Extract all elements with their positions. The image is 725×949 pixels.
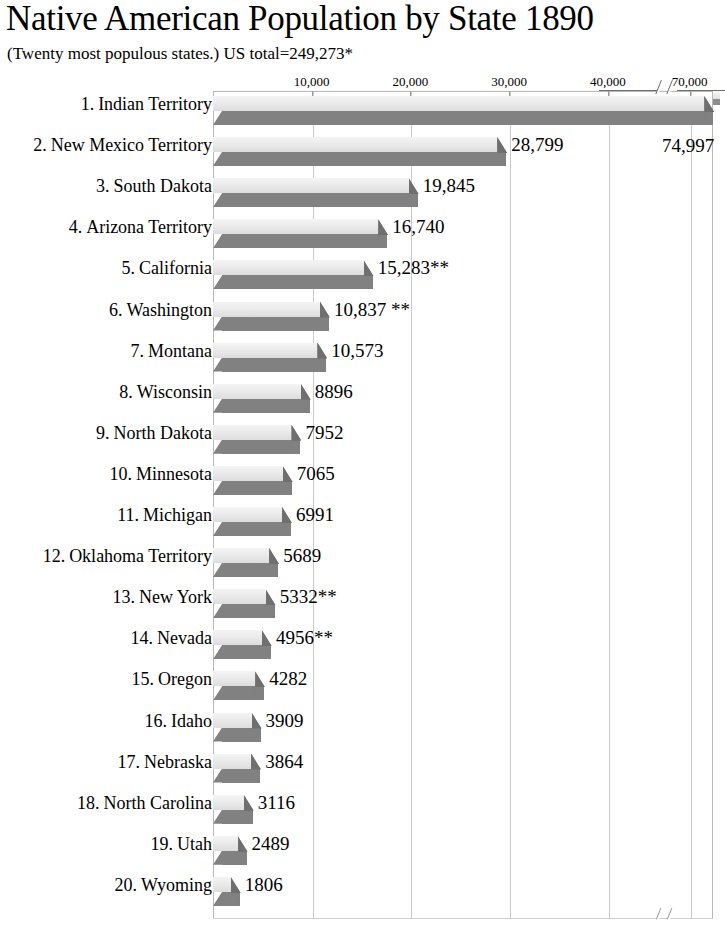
bar-foot [213,522,222,536]
row-state-name: Oregon [158,669,212,689]
bar-north-carolina [213,795,253,824]
row-rank: 11. [117,505,139,525]
value-label-new-mexico-territory: 28,799 [511,134,563,155]
row-rank: 20. [115,875,138,895]
bar-front-face [222,152,506,166]
bar-wisconsin [213,384,310,413]
bar-top-face [213,137,497,152]
bar-end-bevel [269,548,279,564]
axis-tick-label-40000: 40,000 [590,74,626,89]
bar-top-face [213,713,252,728]
bar-foot [213,686,222,700]
bar-utah [213,836,247,865]
row-state-name: Michigan [143,505,212,525]
value-label-north-dakota: 7952 [305,422,343,443]
value-label-oklahoma-territory: 5689 [283,545,321,566]
row-rank: 17. [118,752,141,772]
row-rank: 7. [131,341,145,361]
bar-idaho [213,713,261,742]
row-label-michigan: 11.Michigan [117,505,212,525]
bar-end-bevel [255,671,265,687]
value-label-washington: 10,837 ** [334,299,410,320]
value-label-montana: 10,573 [331,340,383,361]
value-label-wyoming: 1806 [245,874,283,895]
bar-front-face [222,481,292,495]
row-state-name: Wisconsin [137,382,212,402]
bar-top-face [213,671,255,686]
row-state-name: Washington [126,300,212,320]
bar-nevada [213,630,271,659]
row-label-minnesota: 10.Minnesota [110,464,213,484]
row-rank: 6. [109,300,123,320]
bar-foot [213,851,222,865]
bar-front-face [222,193,418,207]
bar-foot [213,810,222,824]
bar-front-face [222,234,387,248]
bar-end-bevel [252,713,262,729]
bar-foot [213,728,222,742]
row-state-name: Wyoming [141,875,212,895]
value-label-california: 15,283** [378,257,449,278]
row-label-utah: 19.Utah [151,834,213,854]
bar-new-mexico-territory [213,137,506,166]
row-state-name: Nebraska [144,752,212,772]
row-rank: 3. [96,176,110,196]
row-state-name: Oklahoma Territory [69,546,212,566]
row-label-wisconsin: 8.Wisconsin [119,382,212,402]
bar-foot [213,563,222,577]
row-label-south-dakota: 3.South Dakota [96,176,212,196]
bar-california [213,260,373,289]
bar-montana [213,343,326,372]
bar-front-face [222,440,300,454]
row-rank: 9. [96,423,110,443]
row-rank: 8. [119,382,133,402]
value-label-utah: 2489 [252,833,290,854]
bar-foot [213,440,222,454]
row-state-name: Minnesota [136,464,212,484]
value-label-new-york: 5332** [280,586,337,607]
bar-washington [213,302,329,331]
bar-foot [213,152,222,166]
value-label-idaho: 3909 [266,710,304,731]
axis-tick-label-20000: 20,000 [393,74,429,89]
axis-tick-label-10000: 10,000 [294,74,330,89]
bar-top-face [213,343,317,358]
bar-end-bevel [244,795,254,811]
bar-foot [213,193,222,207]
bar-end-bevel [282,507,292,523]
bar-end-bevel [238,836,248,852]
bar-oklahoma-territory [213,548,278,577]
row-rank: 1. [81,94,95,114]
bar-end-bevel [409,178,419,194]
axis-tick-label-70000: 70,000 [672,74,708,89]
row-label-montana: 7.Montana [131,341,212,361]
row-rank: 14. [131,628,154,648]
bar-minnesota [213,466,292,495]
row-rank: 15. [132,669,155,689]
bar-end-bevel [317,343,327,359]
bar-top-face [213,877,231,892]
bar-front-face [222,522,291,536]
row-state-name: California [139,258,212,278]
row-label-north-dakota: 9.North Dakota [96,423,212,443]
bar-foot [213,399,222,413]
value-label-indian-territory: 74,997 [662,135,714,156]
bar-front-face [222,275,373,289]
bar-foot [213,645,222,659]
bar-michigan [213,507,291,536]
bar-foot [213,892,222,906]
row-state-name: Arizona Territory [86,217,212,237]
bar-top-face [213,795,244,810]
row-rank: 12. [43,546,66,566]
row-state-name: New York [139,587,212,607]
value-label-arizona-territory: 16,740 [392,216,444,237]
bar-foot [213,317,222,331]
bar-front-face [222,358,326,372]
bar-wyoming [213,877,240,906]
value-label-minnesota: 7065 [297,463,335,484]
bar-indian-territory [213,96,713,125]
row-label-washington: 6.Washington [109,300,212,320]
page-title: Native American Population by State 1890 [6,0,594,40]
bar-top-face [213,178,409,193]
row-state-name: North Carolina [104,793,212,813]
